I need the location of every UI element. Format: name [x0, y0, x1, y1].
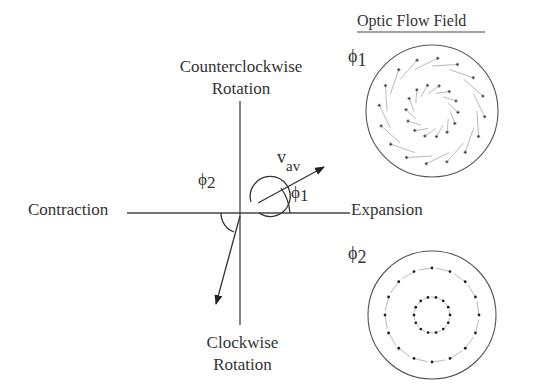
axis-label-right: Expansion	[351, 200, 423, 220]
phi1-index: 1	[300, 186, 309, 205]
vav-label: vav	[277, 155, 300, 176]
axis-label-top-line1: Counterclockwise	[170, 56, 312, 78]
phi2-arc-lower	[221, 213, 234, 232]
field2-label: ϕ2	[348, 243, 366, 264]
phi2-index: 2	[207, 173, 216, 192]
optic-flow-field-2	[368, 251, 496, 379]
flow-vectors-spiral	[378, 57, 486, 165]
axis-label-top-line2: Rotation	[170, 78, 312, 100]
axis-label-left: Contraction	[28, 200, 108, 220]
flow-vectors-rotation	[384, 267, 481, 364]
field1-label: ϕ1	[348, 46, 366, 67]
field2-index: 2	[357, 247, 366, 267]
phi1-symbol: ϕ	[291, 183, 300, 202]
field1-index: 1	[357, 50, 366, 70]
vav-symbol: v	[277, 147, 286, 167]
chart-title: Optic Flow Field	[357, 12, 466, 30]
axis-label-top: Counterclockwise Rotation	[170, 56, 312, 100]
axis-label-bottom-line1: Clockwise	[190, 332, 295, 354]
phi2-label: ϕ2	[198, 170, 215, 190]
vav-subscript: av	[286, 158, 300, 174]
phi1-label: ϕ1	[291, 183, 308, 203]
axis-label-bottom: Clockwise Rotation	[190, 332, 295, 376]
phi2-symbol: ϕ	[198, 170, 207, 189]
axis-label-bottom-line2: Rotation	[190, 354, 295, 376]
optic-flow-field-1	[366, 45, 498, 177]
